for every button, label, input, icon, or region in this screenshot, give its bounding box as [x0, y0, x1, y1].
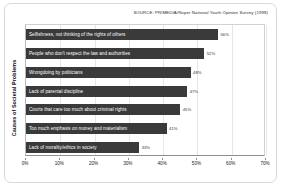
- x-tick-label: 10%: [55, 161, 64, 166]
- bar-category-label: Too much emphasis on money and materiali…: [29, 126, 127, 131]
- bar-row: Selfishness, not thinking of the rights …: [26, 29, 229, 40]
- bar-category-label: Selfishness, not thinking of the rights …: [29, 32, 125, 37]
- x-tick-mark: [231, 158, 232, 160]
- bar-row: Lack of parental discipline47%: [26, 86, 198, 97]
- bar-row: Too much emphasis on money and materiali…: [26, 123, 177, 134]
- bar-category-label: Lack of morality/ethics in society: [29, 145, 97, 150]
- x-axis: 0%10%20%30%40%50%60%70%: [25, 158, 265, 172]
- x-tick-label: 60%: [226, 161, 235, 166]
- bar-value-label: 52%: [207, 51, 215, 56]
- x-tick-mark: [162, 158, 163, 160]
- x-tick-mark: [94, 158, 95, 160]
- x-tick-label: 40%: [158, 161, 167, 166]
- x-tick-mark: [25, 158, 26, 160]
- x-tick-mark: [59, 158, 60, 160]
- bar: Too much emphasis on money and materiali…: [26, 123, 167, 134]
- bar-row: Wrongdoing by politicians48%: [26, 67, 201, 78]
- bar-value-label: 48%: [193, 70, 201, 75]
- bar-category-label: Courts that care too much about criminal…: [29, 107, 127, 112]
- bar-value-label: 56%: [221, 32, 229, 37]
- bar-series: Selfishness, not thinking of the rights …: [26, 25, 264, 155]
- bar-category-label: Wrongdoing by politicians: [29, 70, 83, 75]
- source-note: SOURCE: PRIMEDIA/Roper National Youth Op…: [100, 10, 268, 15]
- x-tick-label: 0%: [22, 161, 29, 166]
- bar: Wrongdoing by politicians: [26, 67, 191, 78]
- x-tick-mark: [265, 158, 266, 160]
- bar: Selfishness, not thinking of the rights …: [26, 29, 218, 40]
- x-tick-mark: [128, 158, 129, 160]
- y-axis-title: Causes of Societal Problems: [11, 43, 17, 153]
- bar: Lack of morality/ethics in society: [26, 142, 139, 153]
- chart-figure: SOURCE: PRIMEDIA/Roper National Youth Op…: [0, 0, 281, 186]
- bar-value-label: 33%: [142, 145, 150, 150]
- bar: People who don't respect the law and aut…: [26, 48, 204, 59]
- bar-category-label: People who don't respect the law and aut…: [29, 51, 130, 56]
- x-tick-label: 30%: [123, 161, 132, 166]
- x-tick-mark: [196, 158, 197, 160]
- bar-row: Lack of morality/ethics in society33%: [26, 142, 150, 153]
- gridline: [266, 25, 267, 155]
- bar-category-label: Lack of parental discipline: [29, 89, 83, 94]
- bar-row: People who don't respect the law and aut…: [26, 48, 215, 59]
- x-tick-label: 20%: [89, 161, 98, 166]
- x-tick-label: 50%: [192, 161, 201, 166]
- bar-row: Courts that care too much about criminal…: [26, 104, 191, 115]
- bar: Courts that care too much about criminal…: [26, 104, 180, 115]
- bar-value-label: 41%: [169, 126, 177, 131]
- plot-area: Selfishness, not thinking of the rights …: [25, 24, 265, 156]
- bar-value-label: 45%: [183, 107, 191, 112]
- bar: Lack of parental discipline: [26, 86, 187, 97]
- x-tick-label: 70%: [260, 161, 269, 166]
- bar-value-label: 47%: [190, 89, 198, 94]
